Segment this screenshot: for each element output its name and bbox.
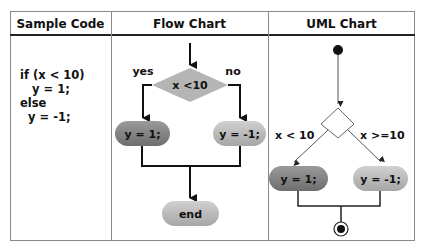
flow-no-arrow (228, 85, 240, 118)
uml-decision-diamond (321, 108, 354, 138)
flow-end-text: end (179, 208, 202, 221)
flow-true-action-text: y = 1; (124, 128, 160, 141)
uml-guard-false: x >=10 (360, 129, 405, 142)
uml-merge-bar (298, 191, 380, 206)
uml-final-node (337, 225, 345, 233)
flow-yes-arrow (143, 85, 152, 118)
uml-guard-true: x < 10 (275, 129, 315, 142)
flow-false-action-text: y = -1; (219, 128, 260, 141)
diagrams: x <10 yes no y = 1; y = -1; end x < 10 x… (0, 0, 424, 251)
flow-yes-label: yes (132, 65, 154, 78)
uml-true-action-text: y = 1; (280, 173, 316, 186)
flow-no-label: no (225, 65, 241, 78)
uml-chart: x < 10 x >=10 y = 1; y = -1; (269, 45, 408, 236)
flow-merge-line (142, 146, 240, 166)
uml-false-action-text: y = -1; (360, 173, 401, 186)
flow-chart: x <10 yes no y = 1; y = -1; end (115, 43, 266, 226)
flow-condition-text: x <10 (172, 79, 208, 92)
uml-initial-node (333, 45, 343, 55)
